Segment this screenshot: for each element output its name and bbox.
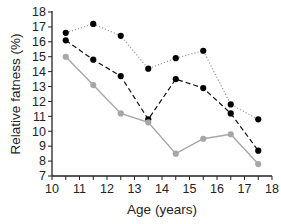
x-tick-label: 15 [183, 182, 197, 196]
data-point [173, 151, 179, 157]
data-point [145, 66, 151, 72]
y-tick-label: 12 [32, 95, 46, 109]
y-tick-label: 11 [33, 110, 46, 124]
x-tick-label: 13 [128, 182, 142, 196]
relative-fatness-chart: 789101112131415161718101112131415161718 … [0, 0, 281, 224]
y-tick-label: 9 [39, 139, 46, 153]
y-tick-label: 14 [32, 65, 46, 79]
data-point [200, 48, 206, 54]
data-point [255, 116, 261, 122]
data-point [200, 136, 206, 142]
data-point [118, 33, 124, 39]
x-tick-label: 12 [100, 182, 114, 196]
x-tick-label: 18 [265, 182, 279, 196]
data-point [255, 161, 261, 167]
data-point [63, 30, 69, 36]
y-tick-label: 15 [32, 50, 46, 64]
data-point [200, 85, 206, 91]
series-layer [63, 21, 262, 167]
x-tick-label: 11 [73, 182, 86, 196]
data-point [90, 57, 96, 63]
y-tick-label: 17 [32, 20, 46, 34]
axes: 789101112131415161718101112131415161718 [32, 5, 279, 196]
data-point [90, 21, 96, 27]
x-tick-label: 14 [155, 182, 169, 196]
data-point [228, 131, 234, 137]
data-point [173, 55, 179, 61]
data-point [118, 110, 124, 116]
x-tick-label: 16 [210, 182, 224, 196]
data-point [228, 101, 234, 107]
x-axis-title: Age (years) [127, 202, 197, 217]
data-point [255, 148, 261, 154]
x-tick-label: 10 [45, 182, 59, 196]
data-point [145, 119, 151, 125]
series-line-solid [66, 57, 259, 164]
x-tick-label: 17 [238, 182, 252, 196]
data-point [173, 76, 179, 82]
y-axis-title: Relative fatness (%) [8, 34, 23, 155]
y-tick-label: 18 [32, 5, 46, 19]
y-tick-label: 16 [32, 35, 46, 49]
y-tick-label: 10 [32, 125, 46, 139]
data-point [63, 37, 69, 43]
data-point [228, 110, 234, 116]
y-tick-label: 13 [32, 80, 46, 94]
data-point [90, 82, 96, 88]
data-point [118, 73, 124, 79]
data-point [63, 54, 69, 60]
y-tick-label: 8 [39, 154, 46, 168]
